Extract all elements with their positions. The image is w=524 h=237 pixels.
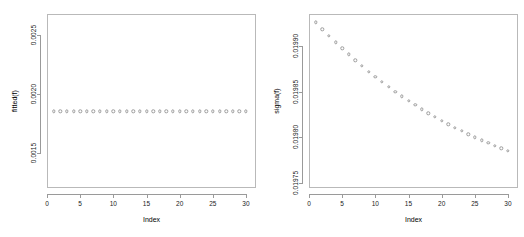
x-axis-tick-label: 30 [504, 200, 511, 207]
x-axis-tick [47, 194, 48, 198]
plot-frame-left [47, 14, 256, 188]
x-axis-title-right: Index [405, 216, 422, 223]
y-axis-tick-label: 0.0020 [29, 84, 36, 104]
x-axis-tick-label: 25 [209, 200, 216, 207]
x-axis-tick-label: 10 [110, 200, 117, 207]
y-axis-line [302, 46, 303, 184]
x-axis-tick-label: 5 [340, 200, 344, 207]
x-axis-tick-label: 15 [405, 200, 412, 207]
x-axis-tick-label: 0 [307, 200, 311, 207]
x-axis-tick-label: 20 [176, 200, 183, 207]
y-axis-title-right: sigma(f) [273, 88, 280, 113]
y-axis-tick [37, 153, 41, 154]
x-axis-tick [113, 194, 114, 198]
x-axis-tick [342, 194, 343, 198]
x-axis-tick [246, 194, 247, 198]
plot-panel-right: 051015202530 0.019750.019800.019850.0199… [262, 0, 524, 237]
x-axis-tick-label: 25 [471, 200, 478, 207]
x-axis-tick [442, 194, 443, 198]
y-axis-tick [299, 183, 303, 184]
plot-frame-right [309, 14, 518, 188]
x-axis-tick [409, 194, 410, 198]
x-axis-tick-label: 0 [45, 200, 49, 207]
x-axis-tick-label: 30 [242, 200, 249, 207]
y-axis-tick-label: 0.01985 [291, 79, 298, 103]
x-axis-tick-label: 5 [78, 200, 82, 207]
x-axis-tick [475, 194, 476, 198]
figure-canvas: 051015202530 0.00150.00200.0025 Index fi… [0, 0, 524, 237]
x-axis-tick-label: 15 [143, 200, 150, 207]
y-axis-tick [299, 46, 303, 47]
x-axis-tick-label: 20 [438, 200, 445, 207]
x-axis-tick [508, 194, 509, 198]
x-axis-tick [213, 194, 214, 198]
x-axis-tick-label: 10 [372, 200, 379, 207]
y-axis-tick [299, 92, 303, 93]
y-axis-tick [37, 94, 41, 95]
x-axis-tick [147, 194, 148, 198]
x-axis-tick [180, 194, 181, 198]
y-axis-tick-label: 0.0025 [29, 25, 36, 45]
x-axis-tick [375, 194, 376, 198]
y-axis-title-left: fitted(f) [11, 90, 18, 112]
y-axis-tick-label: 0.0015 [29, 142, 36, 162]
y-axis-tick [299, 137, 303, 138]
y-axis-tick-label: 0.01980 [291, 125, 298, 149]
x-axis-tick [80, 194, 81, 198]
x-axis-tick [309, 194, 310, 198]
x-axis-title-left: Index [143, 216, 160, 223]
y-axis-tick [37, 35, 41, 36]
plot-panel-left: 051015202530 0.00150.00200.0025 Index fi… [0, 0, 262, 237]
y-axis-tick-label: 0.01990 [291, 34, 298, 58]
y-axis-tick-label: 0.01975 [291, 171, 298, 195]
